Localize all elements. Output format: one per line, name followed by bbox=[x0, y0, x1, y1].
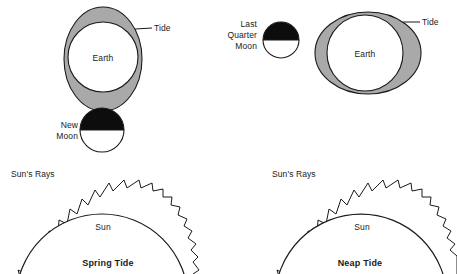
spring-suns-rays-label: Sun's Rays bbox=[11, 169, 55, 179]
new-moon-label-line2: Moon bbox=[40, 131, 78, 141]
new-moon-group bbox=[80, 108, 124, 152]
spring-sun-label: Sun bbox=[86, 222, 120, 232]
last-quarter-moon-label-line1: Last bbox=[213, 19, 257, 29]
spring-tide-caption: Spring Tide bbox=[63, 258, 153, 269]
spring-earth-label: Earth bbox=[85, 53, 121, 63]
last-quarter-moon-label-line3: Moon bbox=[213, 41, 257, 51]
neap-sun-label: Sun bbox=[345, 222, 379, 232]
neap-tide-label: Tide bbox=[422, 17, 439, 27]
last-quarter-moon-group bbox=[263, 22, 299, 58]
neap-tide-caption: Neap Tide bbox=[315, 258, 405, 269]
new-moon-label-line1: New bbox=[40, 120, 78, 130]
spring-tide-label: Tide bbox=[154, 23, 171, 33]
spring-tide-leader-line bbox=[135, 28, 152, 29]
last-quarter-moon-label-line2: Quarter bbox=[213, 30, 257, 40]
neap-earth-label: Earth bbox=[347, 49, 383, 59]
last-quarter-moon-light-half bbox=[263, 40, 299, 58]
tides-diagram: Earth Tide New Moon Sun's Rays Sun Sprin… bbox=[0, 0, 457, 274]
neap-suns-rays-label: Sun's Rays bbox=[272, 169, 316, 179]
new-moon-dark-half bbox=[80, 108, 124, 130]
last-quarter-moon-dark-half bbox=[263, 22, 299, 40]
new-moon-light-half bbox=[80, 130, 124, 152]
